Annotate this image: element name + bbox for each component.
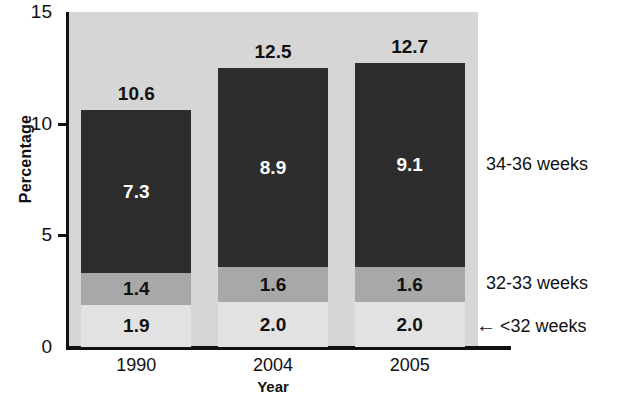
bar-segment-value-label: 1.9: [123, 316, 149, 335]
bar-stack[interactable]: 1.91.47.310.6: [81, 110, 191, 347]
bar-total-label: 12.7: [355, 37, 465, 56]
x-axis-tick-label: 2004: [218, 355, 328, 376]
bar-total-label: 10.6: [81, 84, 191, 103]
y-axis-tick-label: 15: [8, 1, 52, 23]
y-axis-line: [66, 12, 69, 349]
x-axis-tick-label: 2005: [355, 355, 465, 376]
bar-segment-value-label: 1.6: [260, 275, 286, 294]
y-axis-tick: [58, 234, 67, 237]
bar-stack[interactable]: 2.01.68.912.5: [218, 68, 328, 347]
bar-stack[interactable]: 2.01.69.112.7: [355, 63, 465, 347]
bar-segment[interactable]: 2.0: [355, 302, 465, 347]
y-axis-tick: [58, 123, 67, 126]
bar-segment[interactable]: 1.9: [81, 305, 191, 347]
bar-segment[interactable]: 1.6: [355, 267, 465, 303]
legend-annotation: ←<32 weeks: [476, 315, 587, 335]
x-axis-title: Year: [68, 378, 478, 395]
legend-annotation-label: 32-33 weeks: [486, 273, 588, 293]
bar-segment[interactable]: 1.6: [218, 267, 328, 303]
bar-segment[interactable]: 1.4: [81, 273, 191, 304]
bar-total-label: 12.5: [218, 42, 328, 61]
x-axis-tick-label: 1990: [81, 355, 191, 376]
bar-segment[interactable]: 2.0: [218, 302, 328, 347]
bar-segment[interactable]: 8.9: [218, 68, 328, 267]
bar-segment-value-label: 7.3: [123, 182, 149, 201]
legend-annotation-label: <32 weeks: [500, 316, 587, 336]
legend-annotation: 34-36 weeks: [486, 155, 588, 173]
y-axis-title: Percentage: [17, 89, 35, 229]
left-arrow-icon: ←: [476, 315, 496, 335]
bar-segment-value-label: 1.6: [396, 275, 422, 294]
legend-annotation: 32-33 weeks: [486, 274, 588, 292]
bar-segment-value-label: 8.9: [260, 158, 286, 177]
chart-figure: 051015 Percentage Year 19901.91.47.310.6…: [0, 0, 633, 407]
bar-segment-value-label: 1.4: [123, 279, 149, 298]
bar-segment-value-label: 2.0: [396, 315, 422, 334]
bar-segment[interactable]: 7.3: [81, 110, 191, 273]
y-axis-tick-label: 0: [8, 336, 52, 358]
bar-segment-value-label: 9.1: [396, 155, 422, 174]
bar-segment-value-label: 2.0: [260, 315, 286, 334]
legend-annotation-label: 34-36 weeks: [486, 154, 588, 174]
bar-segment[interactable]: 9.1: [355, 63, 465, 266]
